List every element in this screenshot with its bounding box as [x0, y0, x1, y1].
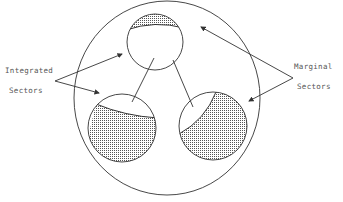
connector-left	[132, 58, 154, 102]
label-marginal-line2: Sectors	[297, 82, 331, 91]
label-integrated-line2: Sectors	[9, 86, 43, 95]
marginal-arrows	[201, 27, 293, 101]
integrated-arrows	[55, 54, 122, 93]
label-integrated-line1: Integrated	[5, 66, 53, 75]
sector-bottom-left	[80, 94, 160, 170]
sector-bottom-right	[175, 88, 255, 170]
connector-right	[173, 60, 193, 107]
diagram-canvas	[0, 0, 343, 202]
label-marginal-line1: Marginal	[294, 62, 333, 71]
sector-top	[125, 0, 185, 70]
